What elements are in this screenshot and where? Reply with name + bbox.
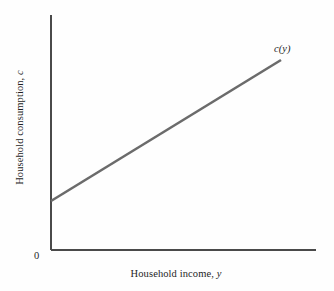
x-axis-label-text: Household income,: [131, 268, 214, 279]
y-axis-label: Household consumption, c: [14, 48, 25, 208]
origin-label: 0: [34, 250, 39, 261]
x-axis-label: Household income, y: [96, 268, 256, 279]
chart-figure: Household consumption, c Household incom…: [0, 0, 334, 291]
y-axis-label-text: Household consumption,: [14, 78, 25, 185]
x-axis-label-symbol: y: [217, 268, 222, 279]
consumption-function-label: c(y): [274, 43, 291, 54]
y-axis-label-symbol: c: [14, 70, 25, 75]
consumption-function-line: [51, 60, 281, 201]
